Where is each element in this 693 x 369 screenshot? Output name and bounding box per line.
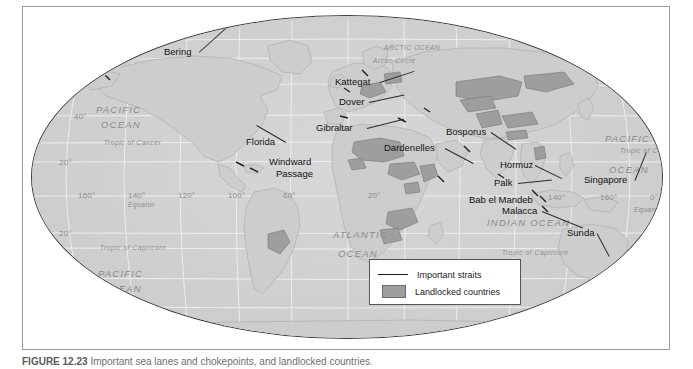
ocean-label: OCEAN	[102, 283, 142, 294]
ocean-label: Equator	[128, 201, 155, 208]
coordinate-tick-label: 160°	[78, 191, 95, 200]
legend-label-landlocked: Landlocked countries	[415, 287, 500, 297]
strait-label: Windward	[269, 156, 311, 167]
coordinate-tick-label: 80°	[110, 38, 123, 47]
coordinate-tick-label: 60°	[283, 191, 296, 200]
ocean-label: Tropic of Cancer	[620, 147, 663, 154]
coordinate-tick-label: 20°	[59, 158, 72, 167]
strait-label: Bering	[164, 46, 191, 57]
legend-item-straits: Important straits	[378, 266, 512, 283]
figure-container: 80°80°40°20°160°140°120°100°20°40°60°60°…	[0, 0, 693, 369]
coordinate-tick-label: 120°	[178, 191, 195, 200]
strait-label: Singapore	[584, 174, 627, 185]
strait-label: Florida	[246, 136, 275, 147]
ocean-label: PACIFIC	[605, 133, 650, 144]
strait-label: Malacca	[502, 205, 537, 216]
coordinate-tick-label: 40°	[74, 112, 87, 121]
coordinate-tick-label: 20°	[368, 191, 381, 200]
ocean-label: Tropic of Capricorn	[100, 244, 166, 251]
coordinate-tick-label: 40°	[77, 274, 90, 283]
coordinate-tick-label: 80°	[566, 40, 579, 49]
ocean-label: PACIFIC	[96, 104, 141, 115]
landlocked-swatch-icon	[382, 285, 406, 298]
coordinate-tick-label: 60°	[122, 312, 135, 321]
strait-label: Gibraltar	[316, 122, 352, 133]
ocean-label: Tropic of Cancer	[104, 139, 161, 146]
strait-label: Bosporus	[446, 126, 486, 137]
ocean-label: Tropic of Capricorn	[502, 249, 568, 256]
coordinate-tick-label: 100°	[228, 191, 245, 200]
coordinate-tick-label: 20°	[59, 229, 72, 238]
strait-label: Sunda	[567, 227, 594, 238]
coordinate-tick-label: 0°	[650, 193, 658, 202]
ocean-label: ATLANTIC	[333, 229, 388, 240]
coordinate-tick-label: 140°	[128, 191, 145, 200]
strait-label: Dardenelles	[384, 142, 435, 153]
ocean-label: OCEAN	[338, 248, 378, 259]
ocean-label: Arctic Circle	[373, 57, 415, 64]
legend-label-straits: Important straits	[417, 270, 482, 280]
coordinate-tick-label: 160°	[600, 193, 617, 202]
ocean-label: Antarctic Circle	[579, 322, 632, 329]
coordinate-tick-label: 140°	[548, 193, 565, 202]
strait-label: Passage	[276, 168, 313, 179]
ocean-label: Equator	[634, 206, 661, 213]
strait-label: Bab el Mandeb	[469, 194, 533, 205]
strait-label: Kattegat	[335, 76, 370, 87]
map-frame: 80°80°40°20°160°140°120°100°20°40°60°60°…	[22, 6, 670, 350]
figure-caption-number: FIGURE 12.23	[22, 356, 88, 367]
ocean-label: ARCTIC OCEAN	[384, 44, 440, 51]
coordinate-tick-label: 60°	[624, 308, 637, 317]
figure-caption-text: Important sea lanes and chokepoints, and…	[90, 356, 372, 367]
legend-item-landlocked: Landlocked countries	[378, 283, 512, 300]
important-straits-line-icon	[378, 274, 408, 275]
ocean-label: OCEAN	[101, 119, 141, 130]
map-legend: Important straits Landlocked countries	[369, 259, 521, 305]
strait-label: Hormuz	[500, 159, 533, 170]
strait-label: Palk	[494, 177, 512, 188]
strait-label: Dover	[339, 96, 364, 107]
figure-caption: FIGURE 12.23 Important sea lanes and cho…	[22, 356, 682, 367]
ocean-label: Antarctic Circle	[136, 321, 189, 328]
world-map-globe: 80°80°40°20°160°140°120°100°20°40°60°60°…	[31, 15, 663, 339]
ocean-label: PACIFIC	[98, 268, 143, 279]
